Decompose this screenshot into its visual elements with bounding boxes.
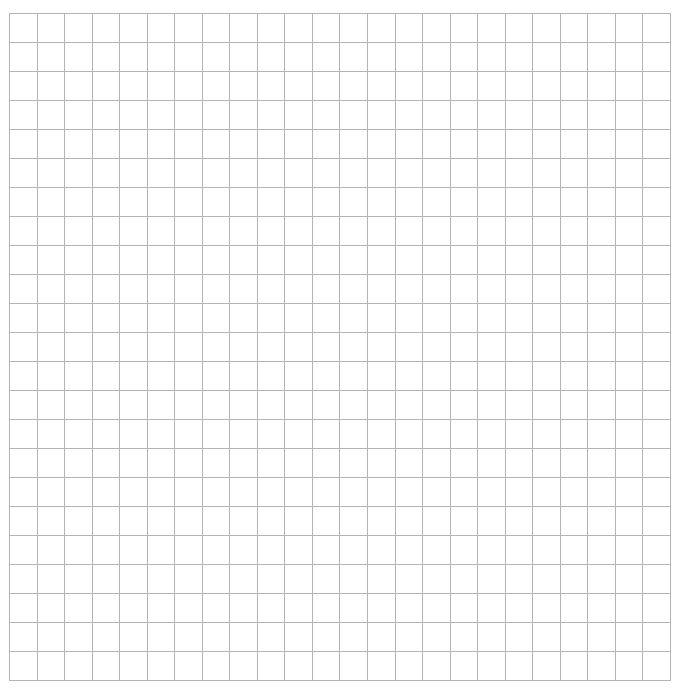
grid-lines bbox=[9, 13, 671, 681]
grid-paper bbox=[9, 13, 671, 685]
